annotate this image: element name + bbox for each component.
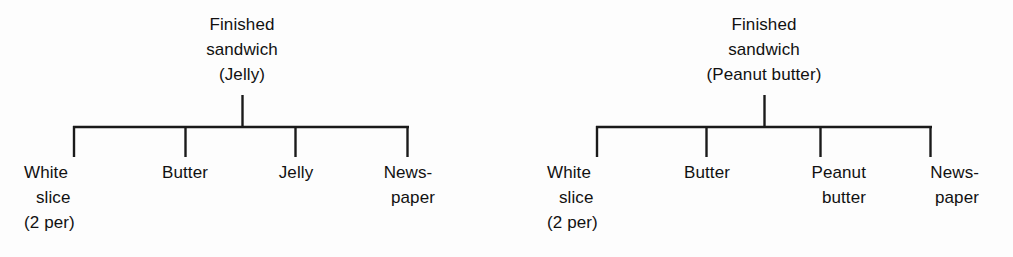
leaf-line-1: News- — [348, 160, 468, 185]
root-node-line-2: sandwich — [142, 37, 342, 62]
root-node-line-1: Finished — [644, 12, 884, 37]
leaf-line-3: (2 per) — [24, 210, 144, 235]
leaf-node-newspaper: News- paper — [859, 160, 979, 210]
product-structure-tree-peanut-butter: Finished sandwich (Peanut butter) White … — [507, 0, 1013, 257]
leaf-line-2: slice — [547, 185, 667, 210]
leaf-line-1: Peanut — [746, 160, 866, 185]
leaf-line-2: slice — [24, 185, 144, 210]
leaf-line-1: Butter — [125, 160, 245, 185]
leaf-line-3: (2 per) — [547, 210, 667, 235]
product-structure-tree-jelly: Finished sandwich (Jelly) White slice (2… — [0, 0, 506, 257]
leaf-line-2: paper — [348, 185, 468, 210]
root-node-line-3: (Peanut butter) — [644, 62, 884, 87]
leaf-line-1: Jelly — [236, 160, 356, 185]
leaf-node-newspaper: News- paper — [348, 160, 468, 210]
leaf-node-jelly: Jelly — [236, 160, 356, 185]
root-node-line-1: Finished — [142, 12, 342, 37]
root-node-jelly: Finished sandwich (Jelly) — [142, 12, 342, 87]
diagram-canvas: Finished sandwich (Jelly) White slice (2… — [0, 0, 1013, 257]
leaf-line-2: paper — [859, 185, 979, 210]
root-node-line-2: sandwich — [644, 37, 884, 62]
root-node-line-3: (Jelly) — [142, 62, 342, 87]
root-node-peanut-butter: Finished sandwich (Peanut butter) — [644, 12, 884, 87]
leaf-node-peanut-butter: Peanut butter — [746, 160, 866, 210]
leaf-line-2: butter — [746, 185, 866, 210]
leaf-node-butter: Butter — [125, 160, 245, 185]
leaf-line-1: News- — [859, 160, 979, 185]
